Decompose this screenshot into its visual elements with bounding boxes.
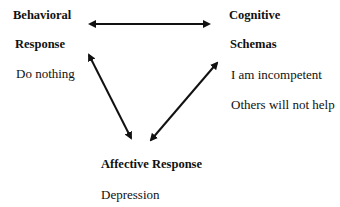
arrow-cognitive-affective [151,63,217,140]
arrows [0,0,340,207]
arrow-behavioral-affective [89,55,131,138]
